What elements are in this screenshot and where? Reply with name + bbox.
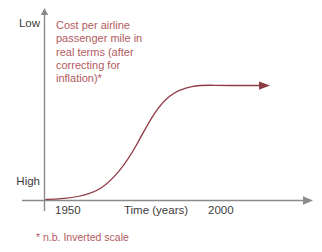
x-axis-tick-1950: 1950 — [55, 205, 81, 217]
x-axis-title: Time (years) — [117, 205, 195, 217]
curve-arrowhead-icon — [259, 82, 270, 90]
x-axis-tick-2000: 2000 — [208, 205, 234, 217]
annotation-line-5: inflation)* — [56, 72, 164, 85]
annotation-line-3: real terms (after — [56, 46, 164, 59]
y-axis-arrowhead-icon — [41, 8, 48, 15]
series-annotation-label: Cost per airline passenger mile in real … — [56, 19, 164, 85]
y-axis-label-low: Low — [10, 18, 40, 30]
data-curve-cost-per-passenger-mile — [46, 85, 261, 199]
y-axis-label-high: High — [8, 176, 40, 188]
annotation-line-4: correcting for — [56, 59, 164, 72]
footnote-inverted-scale: * n.b. Inverted scale — [36, 232, 129, 243]
annotation-line-1: Cost per airline — [56, 19, 164, 32]
x-axis-arrowhead-icon — [303, 196, 313, 204]
annotation-line-2: passenger mile in — [56, 32, 164, 45]
chart-figure: Low High 1950 Time (years) 2000 Cost per… — [0, 0, 322, 252]
